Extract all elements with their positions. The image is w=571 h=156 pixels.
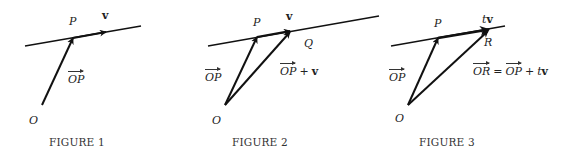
plus-sign: + <box>525 65 534 78</box>
figure-1-artwork <box>25 26 141 105</box>
figure-3-label-R: R <box>484 37 492 48</box>
figure-1-label-O: O <box>29 115 38 126</box>
vector-OP-notation: OP <box>506 62 522 77</box>
vector-OP-notation: OP <box>280 62 296 77</box>
figure-1-vector-v <box>73 32 106 38</box>
vector-OP-notation: OP <box>68 70 84 85</box>
plus-sign: + <box>299 65 308 78</box>
figure-3-label-O: O <box>395 113 404 124</box>
figure-3-vector-OP <box>408 38 438 105</box>
figure-3-label-OP: OP <box>389 68 405 84</box>
figure-2-label-O: O <box>212 115 221 126</box>
figure-2-label-OP: OP <box>205 68 221 84</box>
figure-2-label-v: v <box>286 11 292 22</box>
figure-2-label-Q: Q <box>304 38 313 49</box>
vector-v-symbol: v <box>542 65 548 78</box>
figure-2-vector-OP <box>225 37 257 105</box>
figure-2-label-OP-plus-v: OP+v <box>280 62 318 78</box>
figure-2-line-L <box>208 16 379 46</box>
figure-1-label-P: P <box>69 16 76 27</box>
figure-2-label-P: P <box>253 17 260 28</box>
figure-3-caption: FIGURE 3 <box>419 137 475 148</box>
figure-3-label-tv: tv <box>482 10 493 26</box>
figure-2-caption: FIGURE 2 <box>232 137 288 148</box>
vector-OR-notation: OR <box>473 62 490 77</box>
figure-3-label-P: P <box>434 18 441 29</box>
vector-OP-notation: OP <box>205 68 221 83</box>
figure-3-label-equation: OR=OP+tv <box>473 62 548 78</box>
figure-1-label-v: v <box>102 10 108 21</box>
vector-v-symbol: v <box>312 65 318 78</box>
equals-sign: = <box>493 65 502 78</box>
vector-v-symbol: v <box>486 13 492 26</box>
vector-OP-notation: OP <box>389 68 405 83</box>
figure-1-caption: FIGURE 1 <box>49 137 105 148</box>
figure-1-label-OP: OP <box>68 70 84 86</box>
